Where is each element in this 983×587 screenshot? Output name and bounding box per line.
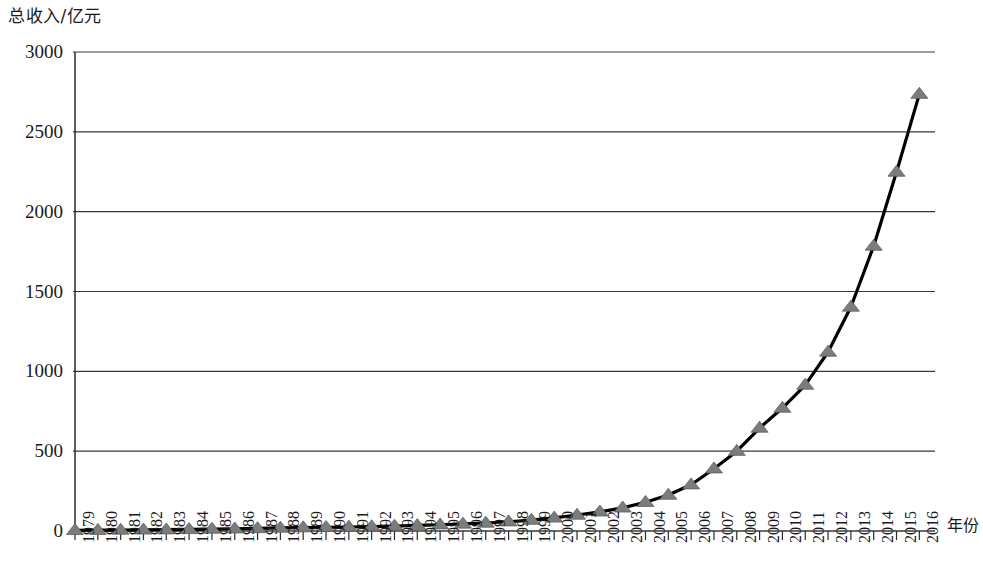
data-point-marker [888,165,905,176]
x-tick-label: 2004 [652,511,668,543]
x-tick-label: 1994 [423,511,439,543]
x-tick-label: 1986 [241,511,257,543]
plot-area [0,0,983,587]
data-point-marker [797,378,814,389]
x-tick-label: 1988 [286,511,302,543]
x-tick-label: 1980 [104,511,120,543]
x-tick-label: 2008 [743,511,759,543]
x-tick-label: 2013 [857,511,873,543]
x-tick-label: 2000 [560,511,576,543]
x-tick-label: 2009 [766,511,782,543]
y-tick-label: 3000 [3,42,63,61]
x-tick-label: 1982 [149,511,165,543]
x-tick-label: 1985 [218,511,234,543]
x-tick-label: 1998 [515,511,531,543]
data-point-marker [911,87,928,98]
y-tick-label: 2000 [3,202,63,221]
data-series-line [75,94,919,530]
x-tick-label: 1993 [400,511,416,543]
x-tick-label: 1991 [355,511,371,543]
data-series-markers [67,87,928,534]
x-tick-label: 2002 [606,511,622,543]
gridlines-group [73,52,935,531]
x-tick-label: 1995 [446,511,462,543]
y-tick-label: 500 [3,441,63,460]
x-tick-label: 1979 [81,511,97,543]
x-tick-label: 1987 [264,511,280,543]
x-tick-label: 1981 [127,511,143,543]
x-tick-label: 1990 [332,511,348,543]
x-tick-label: 2001 [583,511,599,543]
x-tick-label: 2014 [880,511,896,543]
data-point-marker [842,300,859,311]
x-tick-label: 1999 [537,511,553,543]
x-tick-label: 1997 [492,511,508,543]
x-tick-label: 2010 [788,511,804,543]
data-point-marker [820,345,837,356]
x-tick-label: 1984 [195,511,211,543]
x-tick-label: 2016 [925,511,941,543]
x-tick-label: 2003 [629,511,645,543]
y-tick-label: 1500 [3,282,63,301]
data-point-marker [865,239,882,250]
x-tick-label: 1989 [309,511,325,543]
x-tick-label: 1992 [378,511,394,543]
x-tick-label: 2012 [834,511,850,543]
x-tick-label: 2007 [720,511,736,543]
y-tick-label: 2500 [3,122,63,141]
x-tick-label: 2005 [674,511,690,543]
x-tick-label: 1983 [172,511,188,543]
y-tick-label: 1000 [3,361,63,380]
x-tick-label: 1996 [469,511,485,543]
chart-container: 总收入/亿元 年份 050010001500200025003000 19791… [0,0,983,587]
x-tick-label: 2006 [697,511,713,543]
y-tick-label: 0 [3,521,63,540]
x-tick-label: 2015 [903,511,919,543]
x-tick-label: 2011 [811,512,827,543]
